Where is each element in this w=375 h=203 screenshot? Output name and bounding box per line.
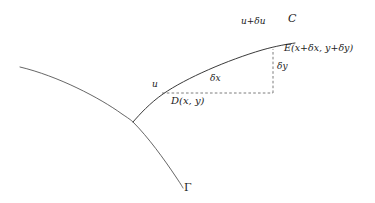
label-delta-y: δy — [277, 62, 288, 71]
label-curve-gamma: Γ — [184, 182, 192, 193]
label-u-plus-delta-u: u+δu — [241, 17, 266, 26]
label-u: u — [152, 80, 158, 89]
label-point-e: E(x+δx, y+δy) — [284, 43, 353, 53]
figure-canvas: u u+δu C E(x+δx, y+δy) D(x, y) δx δy Γ — [0, 0, 375, 203]
label-delta-x: δx — [210, 74, 221, 83]
label-point-d: D(x, y) — [171, 96, 204, 106]
curve-gamma-path — [20, 67, 183, 188]
label-curve-c: C — [288, 13, 296, 24]
